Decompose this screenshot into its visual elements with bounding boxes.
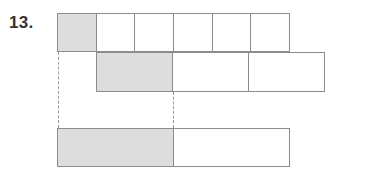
bottom-bar-cell-2 (174, 129, 290, 166)
diagram-canvas: 13. (0, 0, 370, 182)
right-alignment-guide (173, 92, 174, 128)
top-bar-cell-6 (251, 14, 289, 51)
bottom-bar (57, 128, 290, 167)
top-bar-cell-3 (135, 14, 174, 51)
top-bar (57, 13, 290, 52)
top-bar-cell-1 (58, 14, 97, 51)
top-bar-cell-5 (213, 14, 252, 51)
top-bar-cell-4 (174, 14, 213, 51)
left-alignment-guide (58, 52, 59, 128)
bottom-bar-cell-1 (58, 129, 174, 166)
middle-bar-cell-2 (173, 53, 249, 91)
middle-bar-cell-3 (249, 53, 324, 91)
problem-number-label: 13. (9, 13, 34, 33)
middle-bar (96, 52, 325, 92)
middle-bar-cell-1 (97, 53, 173, 91)
top-bar-cell-2 (97, 14, 136, 51)
